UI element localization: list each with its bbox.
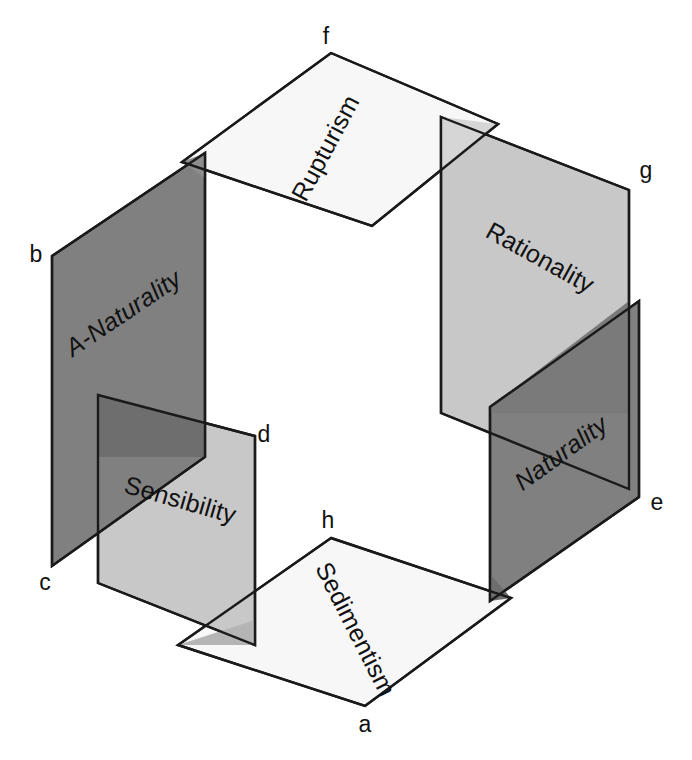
vertex-label-b: b xyxy=(30,241,43,267)
vertex-label-c: c xyxy=(39,569,51,595)
vertex-label-g: g xyxy=(640,157,653,183)
diagram-canvas: Rupturism A-Naturality Rationality Sensi… xyxy=(0,0,692,760)
vertex-label-e: e xyxy=(651,489,664,515)
vertex-label-f: f xyxy=(323,23,330,49)
vertex-label-d: d xyxy=(258,421,271,447)
planes-diagram: Rupturism A-Naturality Rationality Sensi… xyxy=(0,0,692,760)
vertex-label-h: h xyxy=(322,507,335,533)
vertex-label-a: a xyxy=(359,711,372,737)
